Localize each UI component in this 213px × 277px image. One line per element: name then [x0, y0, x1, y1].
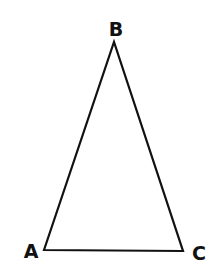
- vertex-label-a: A: [24, 240, 39, 262]
- vertex-label-b: B: [109, 18, 123, 40]
- triangle-diagram: A B C: [0, 0, 213, 277]
- vertex-label-c: C: [192, 242, 206, 264]
- triangle-abc: [44, 42, 183, 251]
